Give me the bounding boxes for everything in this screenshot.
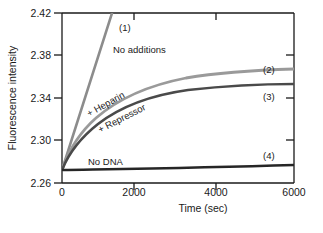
x-tick-label-4000: 4000 (204, 186, 228, 198)
label-curve1-number: (1) (119, 22, 131, 33)
y-tick-label-2-30: 2.30 (31, 134, 52, 146)
label-curve4-name: No DNA (88, 156, 124, 167)
x-axis-title: Time (sec) (178, 202, 227, 214)
x-tick-label-6000: 6000 (282, 186, 306, 198)
y-tick-label-2-42: 2.42 (31, 7, 52, 19)
chart-svg: 2.42 2.38 2.34 2.30 2.26 0 2000 4000 600… (0, 0, 323, 233)
y-tick-label-2-34: 2.34 (31, 92, 52, 104)
x-tick-label-2000: 2000 (122, 186, 146, 198)
y-tick-label-2-26: 2.26 (31, 177, 52, 189)
label-curve1-name: No additions (113, 44, 166, 55)
x-tick-label-0: 0 (59, 186, 65, 198)
chart-figure: 2.42 2.38 2.34 2.30 2.26 0 2000 4000 600… (0, 0, 323, 233)
label-curve3-number: (3) (263, 91, 275, 102)
y-axis-title: Fluorescence intensity (6, 45, 18, 150)
chart-background (0, 0, 323, 233)
label-curve4-number: (4) (263, 150, 275, 161)
y-tick-label-2-38: 2.38 (31, 49, 52, 61)
label-curve2-number: (2) (263, 64, 275, 75)
